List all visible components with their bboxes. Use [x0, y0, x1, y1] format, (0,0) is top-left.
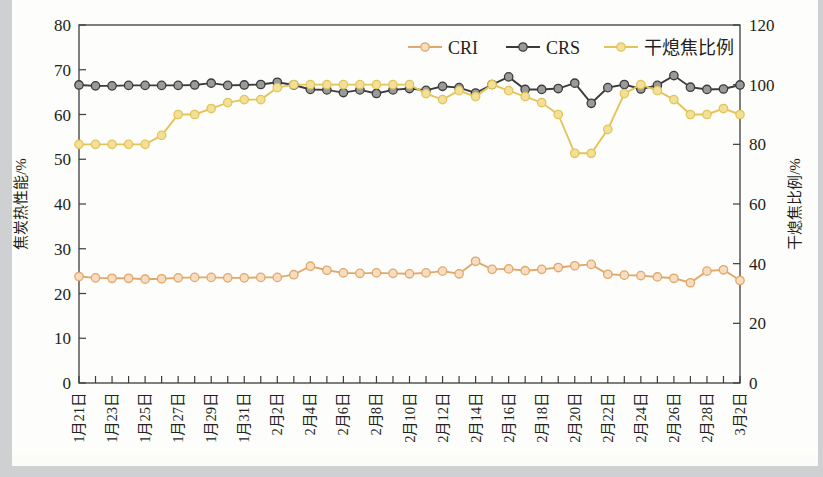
- data-point: [141, 81, 149, 89]
- data-point: [670, 95, 678, 103]
- data-point: [339, 80, 347, 88]
- y-axis-tick-label: 50: [54, 150, 71, 169]
- data-point: [405, 270, 413, 278]
- data-point: [736, 110, 744, 118]
- data-point: [75, 81, 83, 89]
- data-point: [91, 140, 99, 148]
- data-point: [224, 274, 232, 282]
- y2-axis-tick-label: 60: [749, 195, 766, 214]
- data-point: [124, 81, 132, 89]
- data-point: [670, 71, 678, 79]
- data-point: [207, 273, 215, 281]
- data-point: [604, 125, 612, 133]
- x-axis-tick-label: 2月18日: [534, 393, 550, 443]
- y2-axis-tick-label: 120: [749, 16, 775, 35]
- data-point: [504, 73, 512, 81]
- data-point: [686, 83, 694, 91]
- data-point: [240, 95, 248, 103]
- x-axis-tick-label: 2月24日: [633, 393, 649, 443]
- axes-layer: [79, 25, 740, 383]
- coke-quality-line-chart: CRICRS干熄焦比例 0102030405060708002040608010…: [0, 0, 823, 477]
- x-axis-tick-label: 2月2日: [269, 393, 285, 436]
- x-axis-tick-label: 2月26日: [666, 393, 682, 443]
- legend-swatch-marker: [519, 43, 527, 51]
- y-axis-tick-label: 20: [54, 285, 71, 304]
- data-point: [686, 279, 694, 287]
- data-point: [141, 140, 149, 148]
- data-point: [571, 149, 579, 157]
- data-point: [719, 104, 727, 112]
- y-axis-tick-label: 80: [54, 16, 71, 35]
- labels-layer: 010203040506070800204060801001201月21日1月2…: [13, 16, 803, 443]
- data-point: [174, 274, 182, 282]
- data-point: [356, 80, 364, 88]
- y2-axis-tick-label: 0: [749, 374, 758, 393]
- data-point: [587, 99, 595, 107]
- data-point: [257, 273, 265, 281]
- figure-page: CRICRS干熄焦比例 0102030405060708002040608010…: [0, 0, 823, 477]
- x-axis-tick-label: 2月14日: [468, 393, 484, 443]
- x-axis-tick-label: 2月22日: [600, 393, 616, 443]
- x-axis-tick-label: 3月2日: [732, 393, 748, 436]
- series-layer: [75, 71, 744, 287]
- y2-axis-tick-label: 100: [749, 76, 775, 95]
- data-point: [653, 86, 661, 94]
- series-1: [75, 257, 744, 287]
- data-point: [587, 149, 595, 157]
- data-point: [521, 92, 529, 100]
- data-point: [356, 269, 364, 277]
- data-point: [703, 110, 711, 118]
- data-point: [339, 88, 347, 96]
- x-axis-tick-label: 1月21日: [71, 393, 87, 443]
- data-point: [207, 104, 215, 112]
- x-axis-tick-label: 1月23日: [104, 393, 120, 443]
- y-axis-tick-label: 30: [54, 240, 71, 259]
- data-point: [323, 266, 331, 274]
- data-point: [141, 275, 149, 283]
- y-axis-tick-label: 0: [63, 374, 72, 393]
- data-point: [620, 80, 628, 88]
- data-point: [488, 80, 496, 88]
- data-point: [257, 80, 265, 88]
- data-point: [75, 272, 83, 280]
- data-point: [554, 84, 562, 92]
- y2-axis-title: 干熄焦比例/%: [787, 158, 803, 250]
- x-axis-tick-label: 2月4日: [302, 393, 318, 436]
- legend-item-干熄焦比例: 干熄焦比例: [604, 38, 734, 58]
- data-point: [736, 81, 744, 89]
- data-point: [571, 262, 579, 270]
- data-point: [471, 92, 479, 100]
- data-point: [240, 274, 248, 282]
- data-point: [224, 98, 232, 106]
- data-point: [471, 257, 479, 265]
- data-point: [620, 89, 628, 97]
- data-point: [372, 80, 380, 88]
- data-point: [339, 269, 347, 277]
- data-point: [389, 269, 397, 277]
- data-point: [108, 140, 116, 148]
- data-point: [405, 80, 413, 88]
- x-axis-tick-label: 1月25日: [137, 393, 153, 443]
- data-point: [455, 270, 463, 278]
- x-axis-tick-label: 2月20日: [567, 393, 583, 443]
- data-point: [488, 265, 496, 273]
- data-point: [372, 89, 380, 97]
- data-point: [91, 274, 99, 282]
- data-point: [190, 273, 198, 281]
- data-point: [91, 82, 99, 90]
- legend-item-CRS: CRS: [506, 38, 580, 58]
- data-point: [290, 271, 298, 279]
- data-point: [224, 81, 232, 89]
- data-point: [273, 273, 281, 281]
- data-point: [736, 276, 744, 284]
- data-point: [438, 95, 446, 103]
- data-point: [538, 98, 546, 106]
- x-axis-tick-label: 1月31日: [236, 393, 252, 443]
- data-point: [207, 79, 215, 87]
- data-point: [554, 110, 562, 118]
- x-axis-tick-label: 2月16日: [501, 393, 517, 443]
- data-point: [604, 270, 612, 278]
- y-axis-tick-label: 40: [54, 195, 71, 214]
- data-point: [620, 271, 628, 279]
- data-point: [538, 85, 546, 93]
